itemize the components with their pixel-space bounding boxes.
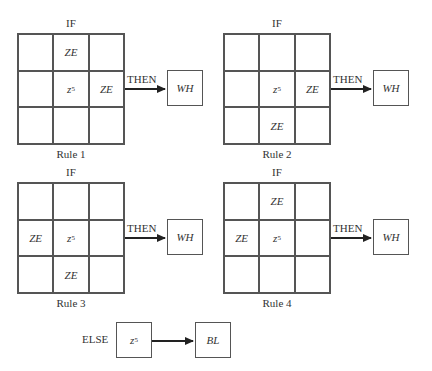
else-output-box: BL xyxy=(195,322,231,358)
rule-1-cell-4-center: z5 xyxy=(53,71,88,108)
rule-4-cell-4-center: z5 xyxy=(259,220,294,257)
rule-2-cell-5: ZE xyxy=(295,71,330,108)
rule-4-cell-1: ZE xyxy=(259,183,294,220)
rule-1-arrow xyxy=(125,88,165,90)
rule-3-cell-0 xyxy=(18,183,53,220)
rule-2-arrow xyxy=(331,88,371,90)
rule-4-name: Rule 4 xyxy=(223,297,331,309)
variable-subscript: 5 xyxy=(277,234,281,242)
variable-subscript: 5 xyxy=(71,85,75,93)
rule-4-cell-7 xyxy=(259,256,294,293)
rule-4-cell-0 xyxy=(224,183,259,220)
rule-3-cell-1 xyxy=(53,183,88,220)
rule-1-cell-3 xyxy=(18,71,53,108)
rule-1-cell-2 xyxy=(89,34,124,71)
rule-4-cell-8 xyxy=(295,256,330,293)
rule-3-name: Rule 3 xyxy=(17,297,125,309)
rule-4-if-label: IF xyxy=(223,166,331,178)
rule-4-arrow xyxy=(331,237,371,239)
rule-3-cell-2 xyxy=(89,183,124,220)
rule-2-cell-0 xyxy=(224,34,259,71)
rule-1-cell-6 xyxy=(18,107,53,144)
rule-2-if-label: IF xyxy=(223,17,331,29)
rule-4-cell-2 xyxy=(295,183,330,220)
rule-3-cell-5 xyxy=(89,220,124,257)
rule-4-cell-3: ZE xyxy=(224,220,259,257)
rule-2-cell-7: ZE xyxy=(259,107,294,144)
rule-3-cell-8 xyxy=(89,256,124,293)
rule-2-cell-6 xyxy=(224,107,259,144)
rule-1-cell-1: ZE xyxy=(53,34,88,71)
else-input-box: z5 xyxy=(116,322,152,358)
rule-3-grid: ZE z5 ZE xyxy=(17,182,125,294)
variable-subscript: 5 xyxy=(134,336,138,344)
rule-4-cell-5 xyxy=(295,220,330,257)
rule-3-cell-4-center: z5 xyxy=(53,220,88,257)
rule-1-then-label: THEN xyxy=(127,73,156,85)
rule-4-cell-6 xyxy=(224,256,259,293)
rule-1-cell-7 xyxy=(53,107,88,144)
rule-1-cell-8 xyxy=(89,107,124,144)
else-label: ELSE xyxy=(82,333,108,345)
rule-2-name: Rule 2 xyxy=(223,148,331,160)
rule-3-cell-6 xyxy=(18,256,53,293)
rule-2-cell-1 xyxy=(259,34,294,71)
variable-subscript: 5 xyxy=(71,234,75,242)
rule-3-cell-7: ZE xyxy=(53,256,88,293)
rule-4-grid: ZE ZE z5 xyxy=(223,182,331,294)
rule-2-then-label: THEN xyxy=(333,73,362,85)
rule-3-then-label: THEN xyxy=(127,222,156,234)
rule-1-cell-0 xyxy=(18,34,53,71)
rule-1-cell-5: ZE xyxy=(89,71,124,108)
rule-1-if-label: IF xyxy=(17,17,125,29)
rule-2-output-box: WH xyxy=(373,70,409,106)
variable-subscript: 5 xyxy=(277,85,281,93)
rule-1-grid: ZE z5 ZE xyxy=(17,33,125,145)
rule-3-cell-3: ZE xyxy=(18,220,53,257)
rule-4-output-box: WH xyxy=(373,219,409,255)
rule-2-cell-2 xyxy=(295,34,330,71)
rule-1-output-box: WH xyxy=(167,70,203,106)
else-arrow xyxy=(152,340,193,342)
rule-2-cell-8 xyxy=(295,107,330,144)
rule-3-arrow xyxy=(125,237,165,239)
rule-2-grid: z5 ZE ZE xyxy=(223,33,331,145)
rule-3-if-label: IF xyxy=(17,166,125,178)
rule-1-name: Rule 1 xyxy=(17,148,125,160)
rule-3-output-box: WH xyxy=(167,219,203,255)
rule-2-cell-3 xyxy=(224,71,259,108)
rule-2-cell-4-center: z5 xyxy=(259,71,294,108)
rule-4-then-label: THEN xyxy=(333,222,362,234)
